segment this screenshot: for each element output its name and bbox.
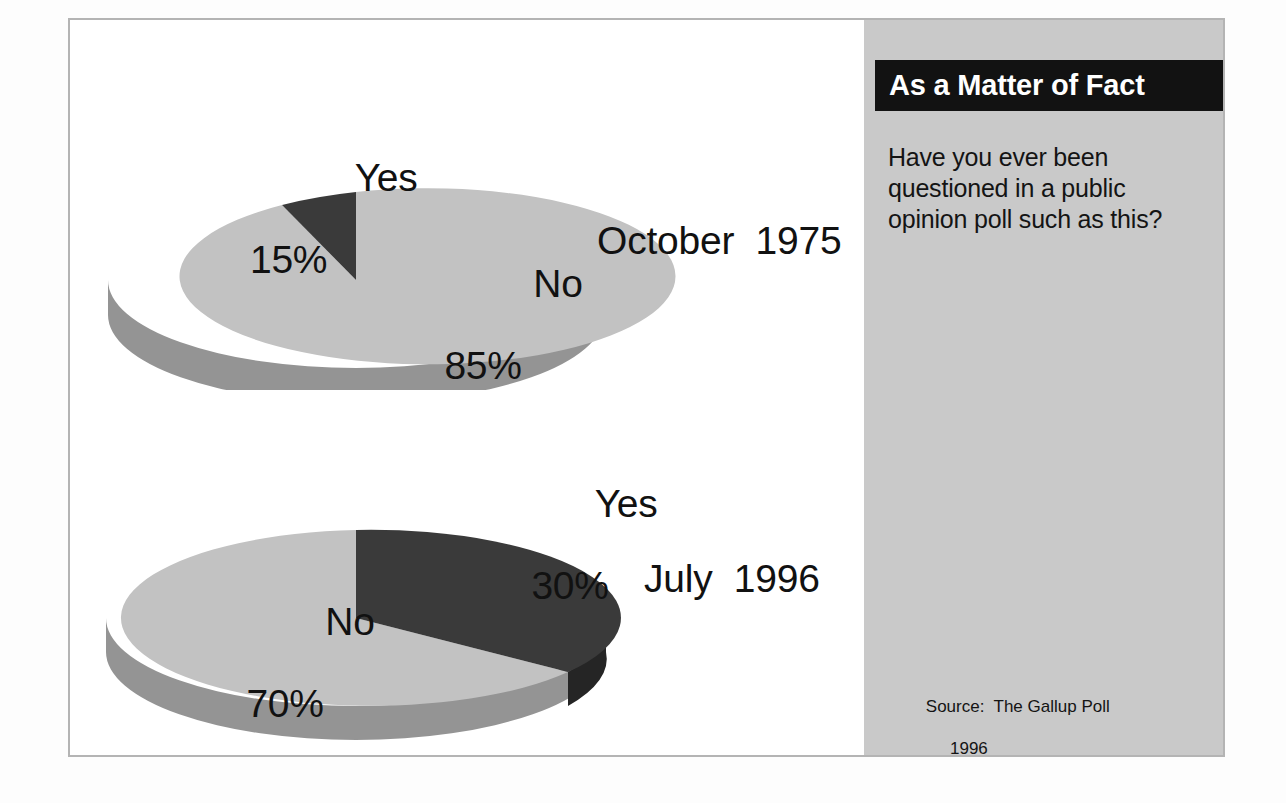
pie-chart-july-1996: Yes 30% No 70% July 1996 — [70, 390, 864, 755]
pie-2-label-no-value: 70% — [220, 683, 350, 724]
pie-1-date-title: October 1975 — [597, 220, 842, 261]
pie-2-label-yes-value: 30% — [490, 565, 650, 606]
pie-1-label-yes-value: 15% — [250, 239, 417, 280]
pie-1-label-no-value: 85% — [428, 345, 538, 386]
poll-question-text: Have you ever been questioned in a publi… — [888, 142, 1200, 235]
pie-2-label-no: No 70% — [220, 560, 350, 803]
source-label: Source: The Gallup Poll — [926, 697, 1110, 716]
sidebar-panel: As a Matter of Fact Have you ever been q… — [864, 20, 1223, 755]
page-canvas: Yes 15% No 85% October 1975 — [0, 0, 1286, 803]
figure-frame: Yes 15% No 85% October 1975 — [68, 18, 1225, 757]
pie-2-label-yes-text: Yes — [595, 482, 658, 525]
source-attribution: Source: The Gallup Poll 1996 — [888, 675, 1208, 801]
pie-1-label-yes: Yes 15% — [250, 116, 417, 362]
pie-1-label-yes-text: Yes — [355, 156, 418, 199]
pie-chart-october-1975: Yes 15% No 85% October 1975 — [70, 20, 864, 390]
chart-area: Yes 15% No 85% October 1975 — [70, 20, 864, 755]
pie-1-label-no-text: No — [533, 262, 582, 305]
pie-2-date-title: July 1996 — [644, 558, 820, 599]
pie-2-label-no-text: No — [325, 600, 374, 643]
sidebar-header-bar: As a Matter of Fact — [875, 60, 1223, 111]
source-year: 1996 — [888, 738, 1208, 759]
pie-2-label-yes: Yes 30% — [490, 442, 650, 688]
sidebar-header-title: As a Matter of Fact — [875, 69, 1145, 102]
